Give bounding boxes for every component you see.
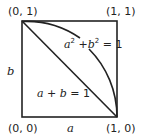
circle-equation-label: a2 +b2 = 1 bbox=[64, 37, 122, 51]
line-equation-label: a + b = 1 bbox=[37, 87, 90, 100]
corner-label-top-right: (1, 1) bbox=[106, 5, 136, 18]
arc-circle-lower bbox=[89, 49, 117, 117]
unit-square-diagram: (0, 1) (1, 1) (0, 0) (1, 0) a b a2 +b2 =… bbox=[0, 0, 142, 139]
line-a-plus-b-equals-1 bbox=[22, 21, 117, 117]
corner-label-bottom-right: (1, 0) bbox=[106, 122, 136, 135]
corner-label-bottom-left: (0, 0) bbox=[8, 122, 38, 135]
axis-label-a: a bbox=[67, 121, 74, 135]
corner-label-top-left: (0, 1) bbox=[8, 5, 38, 18]
axis-label-b: b bbox=[7, 64, 14, 78]
